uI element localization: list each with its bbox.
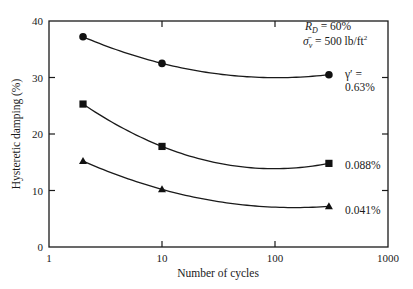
y-axis-title: Hysteretic damping (%)	[10, 79, 23, 190]
y-tick-label: 20	[32, 128, 44, 140]
annotation-label-0041: 0.041%	[345, 204, 381, 216]
annotation-label-0088: 0.088%	[345, 159, 381, 171]
annotation-gamma-label: γ′ =	[344, 68, 362, 81]
annotation-relative-density: RD = 60%	[304, 20, 352, 35]
y-tick-label: 30	[32, 72, 44, 84]
curves	[83, 37, 329, 208]
data-point-square	[79, 100, 86, 107]
x-tick-label: 1000	[377, 252, 400, 264]
plot-frame	[49, 21, 388, 247]
x-axis-title: Number of cycles	[177, 267, 259, 280]
data-point-triangle	[325, 202, 333, 209]
y-tick-label: 40	[32, 15, 44, 27]
markers	[79, 33, 333, 209]
series-line-circle	[83, 37, 329, 78]
series-line-square	[83, 104, 329, 169]
y-tick-label: 10	[32, 185, 44, 197]
data-point-circle	[158, 60, 166, 68]
annotation-vertical-stress: σ̄v = 500 lb/ft2	[303, 34, 368, 50]
data-point-circle	[325, 71, 333, 79]
data-point-circle	[79, 33, 87, 41]
data-point-square	[325, 160, 332, 167]
data-point-square	[158, 143, 165, 150]
data-point-triangle	[79, 157, 87, 164]
y-tick-label: 0	[38, 241, 44, 253]
x-tick-label: 100	[267, 252, 284, 264]
ticks: 1101001000010203040	[32, 15, 400, 264]
annotation-label-063: 0.63%	[345, 81, 375, 93]
x-tick-label: 1	[46, 252, 52, 264]
x-tick-label: 10	[157, 252, 169, 264]
chart: 1101001000010203040 Number of cycles Hys…	[0, 0, 413, 289]
